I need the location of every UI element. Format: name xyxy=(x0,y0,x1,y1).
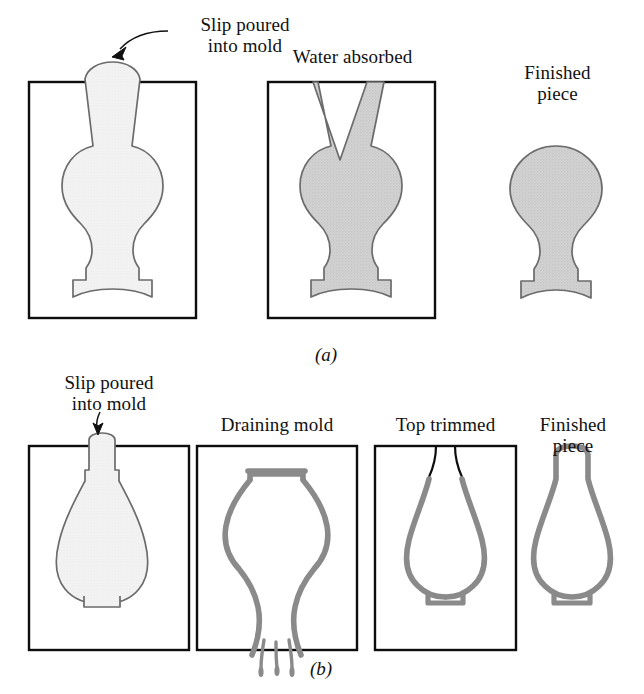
drip-droplet-2 xyxy=(274,666,279,676)
finished-piece-a3 xyxy=(510,146,602,298)
label-a3: Finished piece xyxy=(500,62,615,105)
label-b4: Finished piece xyxy=(518,414,628,457)
label-a2: Water absorbed xyxy=(270,46,435,67)
drip-droplet-1 xyxy=(258,667,263,677)
callout-arrow-a1-head xyxy=(112,47,126,60)
slip-vase-b1-foot xyxy=(84,596,120,607)
label-b2: Draining mold xyxy=(197,414,357,435)
drip-droplet-3 xyxy=(289,667,294,677)
label-b3: Top trimmed xyxy=(375,414,516,435)
panel-letter-b: (b) xyxy=(310,658,332,680)
label-b1: Slip poured into mold xyxy=(33,372,185,415)
slip-casting-figure: Slip poured into mold Water absorbed Fin… xyxy=(0,0,644,694)
mold-box-b3 xyxy=(375,446,516,650)
panel-letter-a: (a) xyxy=(315,344,337,366)
drip-stream-2 xyxy=(276,642,277,667)
finished-vase-b4-body xyxy=(534,446,611,597)
